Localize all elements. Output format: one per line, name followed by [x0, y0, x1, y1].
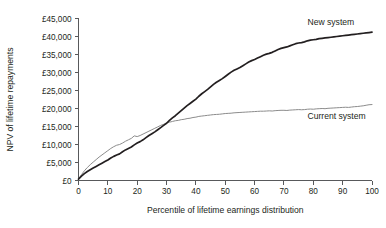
y-tick-label: £25,000	[42, 87, 72, 96]
y-tick-label: £10,000	[42, 141, 72, 150]
x-tick-label: 90	[338, 187, 348, 196]
y-tick-label: £20,000	[42, 105, 72, 114]
y-axis-title: NPV of lifetime repayments	[5, 47, 15, 151]
x-axis-ticks: 0102030405060708090100	[76, 181, 379, 196]
y-tick-label: £35,000	[42, 51, 72, 60]
x-axis-title: Percentile of lifetime earnings distribu…	[147, 205, 304, 215]
chart-figure: £0£5,000£10,000£15,000£20,000£25,000£30,…	[0, 0, 386, 228]
series-label-current-system: Current system	[307, 111, 365, 121]
line-chart: £0£5,000£10,000£15,000£20,000£25,000£30,…	[0, 0, 386, 228]
x-tick-label: 30	[162, 187, 172, 196]
y-tick-label: £0	[62, 177, 72, 186]
x-tick-label: 70	[279, 187, 289, 196]
y-tick-label: £45,000	[42, 15, 72, 24]
x-tick-label: 60	[250, 187, 260, 196]
y-tick-label: £5,000	[46, 159, 71, 168]
x-tick-label: 100	[365, 187, 379, 196]
y-tick-label: £40,000	[42, 33, 72, 42]
y-tick-label: £30,000	[42, 69, 72, 78]
y-tick-label: £15,000	[42, 123, 72, 132]
x-tick-label: 0	[76, 187, 81, 196]
x-tick-label: 20	[133, 187, 143, 196]
series-label-new-system: New system	[307, 17, 354, 27]
x-tick-label: 10	[103, 187, 113, 196]
x-tick-label: 50	[221, 187, 231, 196]
series-line-new-system	[79, 32, 373, 179]
x-tick-label: 40	[191, 187, 201, 196]
y-axis-ticks: £0£5,000£10,000£15,000£20,000£25,000£30,…	[42, 15, 79, 186]
x-tick-label: 80	[309, 187, 319, 196]
